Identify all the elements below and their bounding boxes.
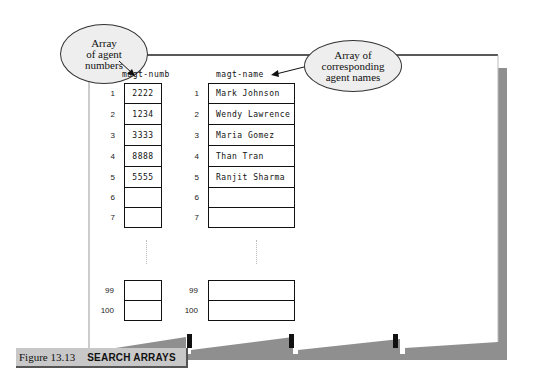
callout-line: agent names xyxy=(305,72,401,83)
number-cell: 5555 xyxy=(124,166,162,188)
array-name-magt-numb: magt-numb xyxy=(122,70,170,79)
number-cell xyxy=(124,187,162,208)
row-index: 4 xyxy=(99,152,115,161)
row-index: 4 xyxy=(183,152,199,161)
figure-caption: Figure 13.13 SEARCH ARRAYS xyxy=(16,348,188,368)
ellipsis-numbers xyxy=(146,240,148,264)
array-name-magt-name: magt-name xyxy=(216,70,264,79)
number-cell: 2222 xyxy=(124,83,162,104)
figure-title: SEARCH ARRAYS xyxy=(87,352,176,363)
figure-number: Figure 13.13 xyxy=(19,351,75,363)
row-index: 5 xyxy=(99,173,115,182)
name-cell xyxy=(208,280,295,301)
row-index: 5 xyxy=(183,173,199,182)
callout-line: corresponding xyxy=(305,61,401,72)
row-index: 3 xyxy=(183,131,199,140)
row-index: 1 xyxy=(183,89,199,98)
row-index: 2 xyxy=(99,110,115,119)
row-index: 99 xyxy=(178,286,198,295)
number-cell: 8888 xyxy=(124,145,162,167)
arrow-to-magt-name xyxy=(268,66,308,80)
row-index: 7 xyxy=(99,213,115,222)
row-index: 1 xyxy=(99,89,115,98)
number-cell xyxy=(124,280,162,301)
name-cell: Maria Gomez xyxy=(208,124,295,146)
row-index: 2 xyxy=(183,110,199,119)
callout-line: of agent xyxy=(61,49,147,60)
row-index: 6 xyxy=(183,193,199,202)
number-cell: 3333 xyxy=(124,124,162,146)
callout-line: Array of xyxy=(305,50,401,61)
name-cell: Ranjit Sharma xyxy=(208,166,295,188)
name-cell: Mark Johnson xyxy=(208,83,295,104)
name-cell xyxy=(208,207,295,228)
name-cell: Than Tran xyxy=(208,145,295,167)
ellipsis-names xyxy=(256,240,258,264)
name-cell xyxy=(208,300,295,321)
name-cell xyxy=(208,187,295,208)
row-index: 3 xyxy=(99,131,115,140)
row-index: 100 xyxy=(178,306,198,315)
row-index: 7 xyxy=(183,213,199,222)
callout-agent-names: Array of corresponding agent names xyxy=(304,40,402,92)
number-cell xyxy=(124,207,162,228)
callout-line: Array xyxy=(61,38,147,49)
number-cell xyxy=(124,300,162,321)
name-cell: Wendy Lawrence xyxy=(208,103,295,125)
row-index: 100 xyxy=(94,306,114,315)
row-index: 6 xyxy=(99,193,115,202)
number-cell: 1234 xyxy=(124,103,162,125)
row-index: 99 xyxy=(94,286,114,295)
